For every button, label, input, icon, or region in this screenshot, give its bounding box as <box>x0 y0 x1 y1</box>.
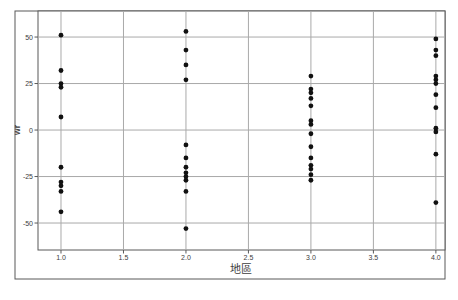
y-tick-label: 25 <box>25 80 33 87</box>
scatter-chart: 50250-25-501.01.52.02.53.03.54.0 地區 wr <box>0 0 458 300</box>
data-point <box>309 74 314 79</box>
data-point <box>184 48 189 53</box>
x-tick-label: 1.0 <box>56 254 66 261</box>
data-point <box>184 226 189 231</box>
data-point <box>184 189 189 194</box>
data-point <box>433 152 438 157</box>
data-point <box>59 165 64 170</box>
data-point <box>184 178 189 183</box>
chart-image: 50250-25-501.01.52.02.53.03.54.0 地區 wr <box>0 0 458 300</box>
x-axis-title: 地區 <box>230 263 252 275</box>
data-point <box>184 143 189 148</box>
data-point <box>184 77 189 82</box>
data-point <box>309 96 314 101</box>
data-point <box>433 81 438 86</box>
y-tick-label: 0 <box>29 127 33 134</box>
y-axis-title: wr <box>12 124 22 136</box>
data-point <box>309 103 314 108</box>
data-point <box>59 68 64 73</box>
y-tick-label: -25 <box>23 173 33 180</box>
x-tick-label: 3.5 <box>369 254 379 261</box>
data-point <box>184 165 189 170</box>
data-point <box>309 156 314 161</box>
y-tick-label: 50 <box>25 34 33 41</box>
data-point <box>309 122 314 127</box>
data-point <box>59 189 64 194</box>
data-point <box>184 29 189 34</box>
data-point <box>59 183 64 188</box>
data-point <box>309 90 314 95</box>
data-point <box>184 156 189 161</box>
y-tick-label: -50 <box>23 220 33 227</box>
data-point <box>433 129 438 134</box>
x-tick-label: 4.0 <box>431 254 441 261</box>
data-point <box>433 48 438 53</box>
x-tick-label: 3.0 <box>306 254 316 261</box>
data-point <box>433 36 438 41</box>
data-point <box>433 200 438 205</box>
data-point <box>309 144 314 149</box>
data-point <box>309 131 314 136</box>
data-point <box>309 172 314 177</box>
data-point <box>59 85 64 90</box>
x-tick-label: 2.0 <box>181 254 191 261</box>
data-point <box>59 209 64 214</box>
data-point <box>184 63 189 68</box>
data-point <box>433 105 438 110</box>
data-point <box>309 178 314 183</box>
data-point <box>433 53 438 58</box>
data-point <box>309 167 314 172</box>
x-tick-label: 1.5 <box>119 254 129 261</box>
data-point <box>59 115 64 120</box>
data-point <box>59 33 64 38</box>
data-point <box>433 92 438 97</box>
x-tick-label: 2.5 <box>244 254 254 261</box>
